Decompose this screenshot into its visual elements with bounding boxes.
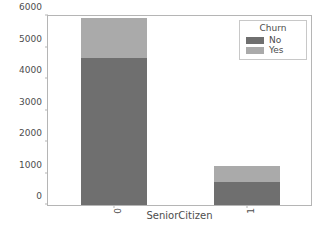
legend-swatch-icon — [246, 37, 264, 44]
y-tick-mark — [45, 15, 48, 16]
legend-item[interactable]: No — [246, 36, 300, 45]
chart-figure: 0100020003000400050006000 01 Churn NoYes… — [0, 0, 336, 235]
y-tick-mark — [45, 46, 48, 47]
y-tick-label: 5000 — [19, 34, 48, 43]
y-tick-mark — [45, 172, 48, 173]
bar-segment-no — [214, 182, 280, 205]
y-tick-mark — [45, 109, 48, 110]
bar-segment-yes — [214, 166, 280, 181]
legend-item-label: No — [269, 36, 281, 45]
y-tick-label: 3000 — [19, 97, 48, 106]
legend-title: Churn — [246, 24, 300, 34]
y-tick-mark — [45, 204, 48, 205]
legend-entries: NoYes — [246, 36, 300, 55]
y-tick-label: 4000 — [19, 66, 48, 75]
legend: Churn NoYes — [239, 20, 307, 60]
legend-item[interactable]: Yes — [246, 46, 300, 55]
bar-segment-no — [81, 58, 147, 205]
y-tick-label: 1000 — [19, 160, 48, 169]
plot-area: 0100020003000400050006000 01 Churn NoYes — [47, 15, 312, 206]
x-axis-label: SeniorCitizen — [47, 210, 312, 221]
y-tick-mark — [45, 141, 48, 142]
y-tick-mark — [45, 78, 48, 79]
legend-swatch-icon — [246, 47, 264, 54]
y-tick-label: 0 — [36, 192, 48, 201]
y-tick-label: 6000 — [19, 3, 48, 12]
bar-stack — [81, 16, 147, 205]
y-tick-label: 2000 — [19, 129, 48, 138]
legend-item-label: Yes — [269, 46, 284, 55]
bar-segment-yes — [81, 18, 147, 58]
